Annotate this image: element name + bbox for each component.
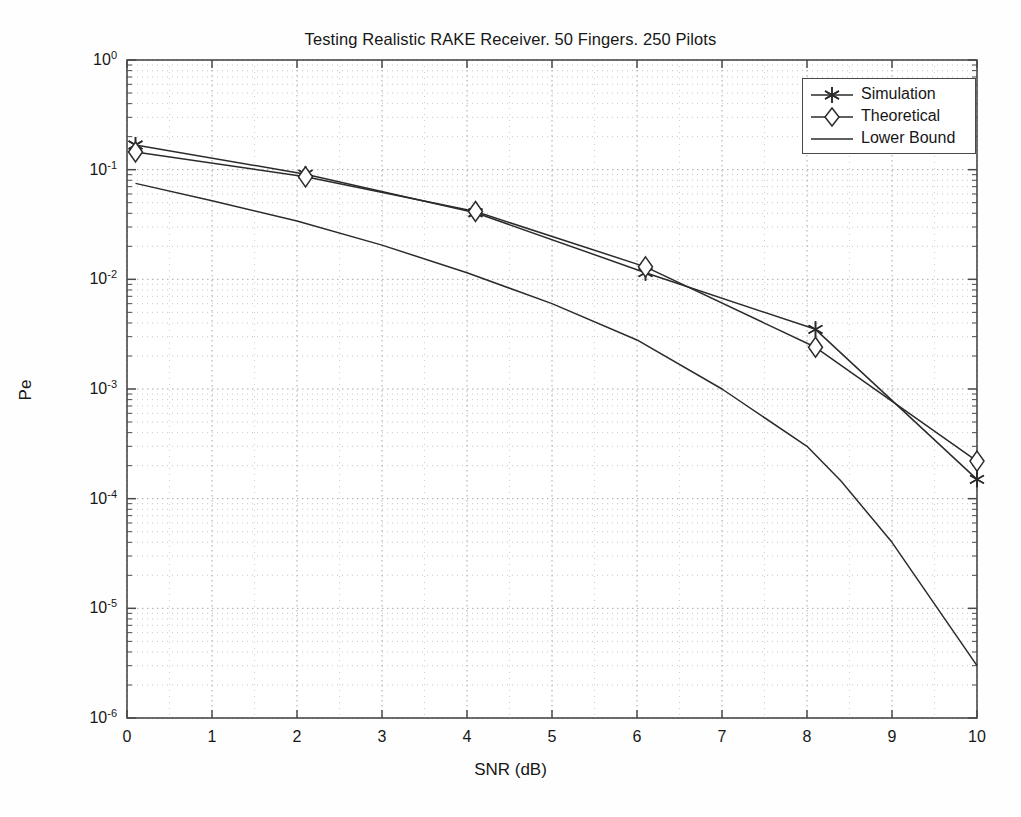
- legend-label: Simulation: [855, 85, 936, 103]
- legend-label: Theoretical: [855, 107, 940, 125]
- legend-item: Lower Bound: [809, 127, 967, 149]
- y-tick-label: 10-2: [41, 270, 117, 288]
- y-tick-label: 10-5: [41, 599, 117, 617]
- legend-label: Lower Bound: [855, 129, 955, 147]
- x-tick-label: 2: [293, 728, 302, 746]
- x-tick-label: 7: [718, 728, 727, 746]
- legend-item: Simulation: [809, 83, 967, 105]
- x-tick-label: 3: [378, 728, 387, 746]
- x-tick-label: 5: [548, 728, 557, 746]
- x-tick-label: 8: [803, 728, 812, 746]
- y-tick-label: 10-6: [41, 709, 117, 727]
- figure-canvas: Testing Realistic RAKE Receiver. 50 Fing…: [0, 0, 1021, 817]
- y-tick-label: 10-3: [41, 380, 117, 398]
- x-tick-label: 1: [208, 728, 217, 746]
- legend-marker-star-asterisk: [809, 84, 855, 104]
- legend-item: Theoretical: [809, 105, 967, 127]
- y-tick-label: 100: [41, 51, 117, 69]
- x-tick-label: 9: [888, 728, 897, 746]
- x-tick-label: 4: [463, 728, 472, 746]
- y-tick-label: 10-1: [41, 161, 117, 179]
- legend: SimulationTheoreticalLower Bound: [802, 78, 976, 154]
- x-tick-label: 0: [123, 728, 132, 746]
- x-tick-label: 6: [633, 728, 642, 746]
- legend-marker-diamond: [809, 106, 855, 126]
- y-tick-label: 10-4: [41, 490, 117, 508]
- legend-marker-none: [809, 128, 855, 148]
- x-tick-label: 10: [968, 728, 986, 746]
